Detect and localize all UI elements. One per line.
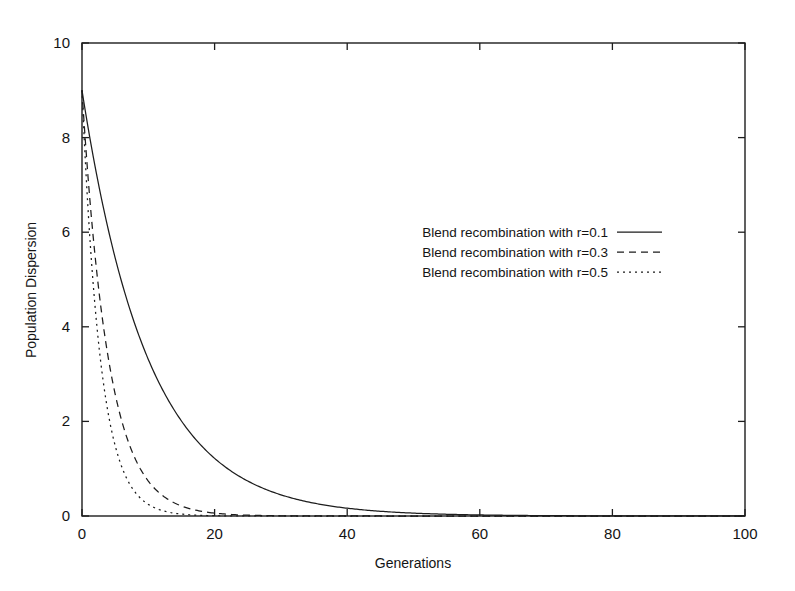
population-dispersion-chart: 0204060801000246810 Blend recombination … xyxy=(0,0,795,591)
x-tick-label-40: 40 xyxy=(339,525,356,542)
x-tick-label-0: 0 xyxy=(78,525,86,542)
legend-label-3: Blend recombination with r=0.5 xyxy=(422,265,608,280)
y-axis-title: Population Dispersion xyxy=(23,222,39,358)
y-tick-label-4: 4 xyxy=(62,318,70,335)
x-tick-label-20: 20 xyxy=(206,525,223,542)
y-tick-label-6: 6 xyxy=(62,223,70,240)
chart-figure: 0204060801000246810 Blend recombination … xyxy=(0,0,795,591)
legend-label-1: Blend recombination with r=0.1 xyxy=(422,225,608,240)
y-tick-label-8: 8 xyxy=(62,129,70,146)
x-tick-label-60: 60 xyxy=(471,525,488,542)
legend-label-2: Blend recombination with r=0.3 xyxy=(422,245,608,260)
x-tick-label-80: 80 xyxy=(604,525,621,542)
y-tick-label-0: 0 xyxy=(62,507,70,524)
y-tick-label-2: 2 xyxy=(62,412,70,429)
x-axis-title: Generations xyxy=(375,555,451,571)
y-tick-label-10: 10 xyxy=(53,34,70,51)
x-tick-label-100: 100 xyxy=(732,525,757,542)
figure-background xyxy=(0,0,795,591)
